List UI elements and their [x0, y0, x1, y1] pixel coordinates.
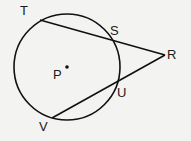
- diagram-canvas: [0, 0, 191, 141]
- label-t: T: [20, 4, 28, 17]
- label-u: U: [117, 86, 126, 99]
- center-point: [65, 65, 69, 69]
- secant-tr: [40, 20, 165, 55]
- label-r: R: [167, 48, 176, 61]
- label-s: S: [110, 24, 119, 37]
- geometry-diagram: T S R P U V: [0, 0, 191, 141]
- label-p: P: [53, 68, 62, 81]
- label-v: V: [39, 120, 48, 133]
- secant-vr: [52, 55, 165, 118]
